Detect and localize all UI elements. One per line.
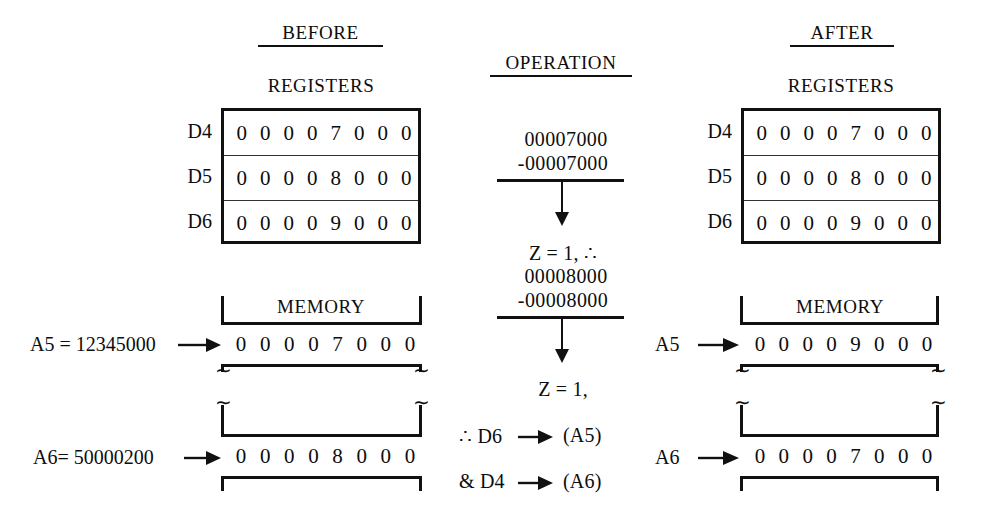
digit: 0	[277, 446, 301, 467]
digit: 0	[229, 334, 253, 355]
digit: 0	[277, 334, 301, 355]
before-memory1-arrow-icon	[178, 336, 222, 354]
before-register-label-d6: D6	[166, 210, 212, 233]
digit: 0	[301, 446, 325, 467]
digit: 9	[324, 213, 348, 234]
operation-conclusion2-target: (A6)	[563, 470, 602, 493]
operation-conclusion1-source: ∴ D6	[459, 424, 502, 448]
after-memory1-arrow-icon	[698, 336, 740, 354]
digit: 0	[374, 446, 398, 467]
digit: 0	[395, 168, 419, 189]
digit: 0	[371, 123, 395, 144]
digit: 0	[891, 334, 915, 355]
after-register-label-d5: D5	[686, 165, 732, 188]
digit: 0	[230, 213, 254, 234]
operation-conclusion2-source: & D4	[459, 470, 505, 493]
before-column-heading: BEFORE	[258, 22, 383, 47]
before-registers-box: 0 0 0 0 7 0 0 0 0 0 0 0 8 0 0 0 0 0 0 0 …	[221, 108, 421, 244]
digit: 0	[796, 446, 820, 467]
digit: 0	[796, 334, 820, 355]
table-row: 0 0 0 0 8 0 0 0	[744, 156, 938, 201]
digit: 0	[915, 168, 939, 189]
digit: 0	[867, 446, 891, 467]
table-row: 0 0 0 0 8 0 0 0	[224, 156, 418, 201]
after-memory1-address-label: A5	[655, 333, 679, 356]
digit: 0	[230, 123, 254, 144]
digit: 0	[253, 334, 277, 355]
digit: 9	[844, 334, 868, 355]
after-registers-title: REGISTERS	[760, 75, 922, 97]
digit: 7	[326, 334, 350, 355]
digit: 0	[750, 168, 774, 189]
after-memory1-break-left-icon: ∼	[734, 360, 751, 380]
digit: 0	[797, 168, 821, 189]
digit: 0	[891, 446, 915, 467]
digit: 0	[395, 123, 419, 144]
after-column-heading: AFTER	[790, 22, 894, 47]
before-d6-digits: 0 0 0 0 9 0 0 0	[224, 213, 418, 234]
operation-column-heading: OPERATION	[490, 52, 632, 77]
digit: 0	[821, 213, 845, 234]
digit: 0	[277, 123, 301, 144]
digit: 0	[301, 213, 325, 234]
after-d4-digits: 0 0 0 0 7 0 0 0	[744, 123, 938, 144]
before-memory1-break-right-icon: ∼	[413, 360, 430, 380]
digit: 0	[301, 334, 325, 355]
digit: 0	[230, 168, 254, 189]
after-d5-digits: 0 0 0 0 8 0 0 0	[744, 168, 938, 189]
digit: 0	[301, 168, 325, 189]
digit: 0	[774, 213, 798, 234]
digit: 0	[350, 446, 374, 467]
digit: 8	[324, 168, 348, 189]
before-memory-title: MEMORY	[241, 296, 401, 318]
before-d5-digits: 0 0 0 0 8 0 0 0	[224, 168, 418, 189]
operation-step2-operand: 00008000	[506, 265, 626, 288]
digit: 0	[254, 123, 278, 144]
before-d4-digits: 0 0 0 0 7 0 0 0	[224, 123, 418, 144]
digit: 0	[371, 168, 395, 189]
digit: 0	[253, 446, 277, 467]
before-memory1-break-left-icon: ∼	[215, 360, 232, 380]
operation-result1: Z = 1, ∴	[500, 241, 626, 265]
after-memory2-address-label: A6	[655, 446, 679, 469]
before-memory2-arrow-icon	[184, 449, 222, 467]
digit: 0	[277, 213, 301, 234]
operation-step2-subtrahend: -00008000	[500, 289, 626, 312]
digit: 0	[750, 123, 774, 144]
digit: 0	[891, 168, 915, 189]
digit: 0	[820, 334, 844, 355]
operation-step1-operand: 00007000	[506, 128, 626, 151]
digit: 0	[797, 213, 821, 234]
digit: 8	[844, 168, 868, 189]
digit: 0	[348, 168, 372, 189]
digit: 0	[254, 168, 278, 189]
digit: 0	[748, 334, 772, 355]
before-register-label-d4: D4	[166, 120, 212, 143]
digit: 0	[772, 334, 796, 355]
after-memory2-digits: 0 0 0 0 7 0 0 0	[740, 437, 939, 476]
digit: 7	[324, 123, 348, 144]
digit: 0	[868, 168, 892, 189]
table-row: 0 0 0 0 9 0 0 0	[744, 201, 938, 246]
digit: 0	[772, 446, 796, 467]
after-memory1-cell: 0 0 0 0 9 0 0 0	[740, 322, 939, 367]
operation-step1-subtrahend: -00007000	[500, 152, 626, 175]
after-registers-box: 0 0 0 0 7 0 0 0 0 0 0 0 8 0 0 0 0 0 0 0 …	[741, 108, 941, 244]
digit: 0	[820, 446, 844, 467]
table-row: 0 0 0 0 7 0 0 0	[224, 111, 418, 156]
before-memory2-cell: 0 0 0 0 8 0 0 0	[221, 434, 422, 479]
after-memory1-break-right-icon: ∼	[930, 360, 947, 380]
digit: 0	[915, 123, 939, 144]
digit: 0	[277, 168, 301, 189]
digit: 0	[350, 334, 374, 355]
after-memory2-cell: 0 0 0 0 7 0 0 0	[740, 434, 939, 479]
digit: 0	[398, 334, 422, 355]
digit: 0	[348, 213, 372, 234]
after-register-label-d4: D4	[686, 120, 732, 143]
digit: 0	[254, 213, 278, 234]
before-memory1-cell: 0 0 0 0 7 0 0 0	[221, 322, 422, 367]
digit: 0	[774, 123, 798, 144]
digit: 0	[891, 213, 915, 234]
digit: 0	[797, 123, 821, 144]
digit: 0	[821, 168, 845, 189]
